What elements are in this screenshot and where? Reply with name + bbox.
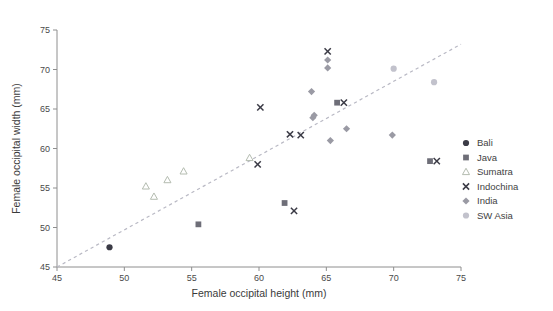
- legend-label: Indochina: [477, 181, 519, 192]
- legend-label: Sumatra: [477, 166, 514, 177]
- x-tick-label: 45: [52, 273, 62, 283]
- data-point: [106, 244, 112, 250]
- data-point: [427, 158, 433, 164]
- x-tick-label: 55: [187, 273, 197, 283]
- x-tick-label: 60: [254, 273, 264, 283]
- legend-label: Bali: [477, 137, 493, 148]
- data-point: [196, 221, 202, 227]
- legend-label: India: [477, 195, 498, 206]
- legend-label: SW Asia: [477, 210, 514, 221]
- y-tick-label: 75: [40, 25, 50, 35]
- data-point: [391, 66, 397, 72]
- legend-marker-icon: [463, 212, 469, 218]
- y-tick-label: 45: [40, 262, 50, 272]
- x-tick-label: 70: [389, 273, 399, 283]
- legend-marker-icon: [463, 155, 469, 161]
- data-point: [431, 79, 437, 85]
- figure-background: [0, 0, 553, 311]
- data-point: [334, 100, 340, 106]
- scatter-plot-figure: 4550556065707545505560657075 Female occi…: [0, 0, 553, 311]
- legend-label: Java: [477, 152, 498, 163]
- y-axis-title: Female occipital width (mm): [10, 83, 22, 214]
- legend-marker-icon: [463, 140, 469, 146]
- x-tick-label: 65: [321, 273, 331, 283]
- y-tick-label: 70: [40, 65, 50, 75]
- y-tick-label: 55: [40, 183, 50, 193]
- x-tick-label: 75: [456, 273, 466, 283]
- y-tick-label: 50: [40, 223, 50, 233]
- y-tick-label: 65: [40, 104, 50, 114]
- x-tick-label: 50: [119, 273, 129, 283]
- series-bali: [106, 244, 112, 250]
- x-axis-title: Female occipital height (mm): [192, 287, 327, 299]
- y-tick-label: 60: [40, 144, 50, 154]
- data-point: [282, 200, 288, 206]
